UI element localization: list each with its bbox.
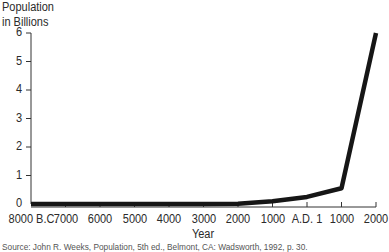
x-tick-label: 3000 — [191, 212, 215, 226]
y-tick-label: 0 — [10, 196, 22, 210]
source-note: Source: John R. Weeks, Population, 5th e… — [2, 242, 308, 252]
x-tick-label: 7000 — [53, 212, 77, 226]
x-tick-label: 1000 — [260, 212, 284, 226]
x-tick-label: 5000 — [122, 212, 146, 226]
y-tick-label: 4 — [10, 82, 22, 96]
y-tick-label: 6 — [10, 25, 22, 39]
x-tick-label: 8000 B.C. — [9, 212, 58, 226]
x-tick-label: A.D. 1 — [292, 212, 323, 226]
y-tick-label: 3 — [10, 111, 22, 125]
x-tick-label: 6000 — [88, 212, 112, 226]
y-tick-label: 1 — [10, 168, 22, 182]
y-tick-label: 5 — [10, 54, 22, 68]
population-line — [31, 33, 376, 204]
y-tick-label: 2 — [10, 139, 22, 153]
x-tick-label: 2000 — [226, 212, 250, 226]
x-tick-label: 1000 — [329, 212, 353, 226]
x-tick-label: 2000 — [364, 212, 388, 226]
x-tick-label: 4000 — [157, 212, 181, 226]
x-axis-title: Year — [192, 227, 214, 241]
